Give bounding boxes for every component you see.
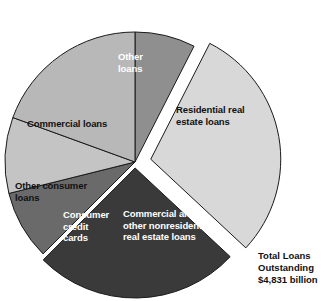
total-loans-line-2: Outstanding [258, 262, 332, 274]
pie-chart-figure: Other loans Residential real estate loan… [0, 0, 332, 301]
pie-slices-group [5, 32, 281, 298]
total-loans-line-1: Total Loans [258, 250, 332, 262]
total-loans-outstanding-annotation: Total Loans Outstanding $4,831 billion [258, 250, 332, 286]
total-loans-line-3: $4,831 billion [258, 274, 332, 286]
